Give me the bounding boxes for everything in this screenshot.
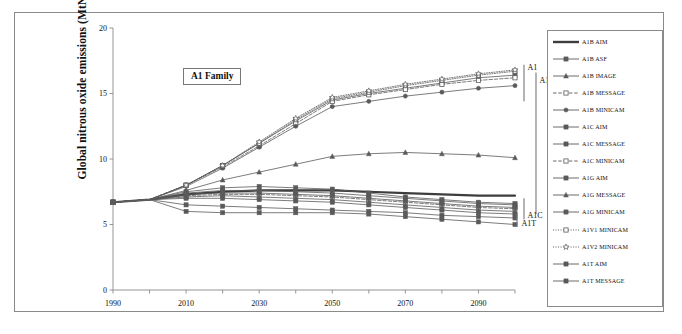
bracket-label-a1: A1 bbox=[528, 63, 538, 72]
legend-item-label: A1V1 MINICAM bbox=[581, 227, 628, 233]
legend-item[interactable]: A1V2 MINICAM bbox=[548, 238, 662, 255]
legend-item-label: A1C MINICAM bbox=[581, 158, 624, 164]
legend-item[interactable]: A1B ASF bbox=[548, 50, 662, 67]
legend-item[interactable]: A1G MINICAM bbox=[548, 204, 662, 221]
legend-item-label: A1G MINICAM bbox=[581, 209, 625, 215]
legend-item[interactable]: A1T AIM bbox=[548, 255, 662, 272]
legend-marker-icon bbox=[551, 206, 581, 218]
legend-item-label: A1B AIM bbox=[581, 39, 608, 45]
x-tick-label: 2050 bbox=[324, 299, 340, 308]
x-tick-label: 2070 bbox=[397, 299, 413, 308]
x-tick-label: 2030 bbox=[251, 299, 267, 308]
legend-item[interactable]: A1G MESSAGE bbox=[548, 187, 662, 204]
legend-marker-icon bbox=[551, 53, 581, 65]
y-tick-label: 15 bbox=[99, 89, 107, 98]
series-a1t-aim bbox=[111, 200, 517, 220]
bracket-label-a1t: A1T bbox=[522, 219, 537, 228]
legend-item-label: A1V2 MINICAM bbox=[581, 244, 628, 250]
legend-item[interactable]: A1B IMAGE bbox=[548, 67, 662, 84]
figure-page: 05101520199020102030205020702090A1A1GA1C… bbox=[0, 0, 682, 334]
legend-item[interactable]: A1V1 MINICAM bbox=[548, 221, 662, 238]
legend-item-label: A1B IMAGE bbox=[581, 73, 616, 79]
legend-marker-icon bbox=[551, 224, 581, 236]
legend-item[interactable]: A1B AIM bbox=[548, 33, 662, 50]
y-axis-title: Global nitrous oxide emissions (MtN/yr) bbox=[76, 0, 88, 194]
legend-marker-icon bbox=[551, 87, 581, 99]
legend-marker-icon bbox=[551, 172, 581, 184]
legend: A1B AIMA1B ASFA1B IMAGEA1B MESSAGEA1B MI… bbox=[547, 30, 663, 307]
legend-item-label: A1T MESSAGE bbox=[581, 278, 625, 284]
figure-frame: 05101520199020102030205020702090A1A1GA1C… bbox=[14, 12, 664, 312]
y-tick-label: 0 bbox=[103, 286, 107, 295]
legend-item-label: A1C MESSAGE bbox=[581, 141, 625, 147]
legend-item-label: A1B MINICAM bbox=[581, 107, 624, 113]
legend-item[interactable]: A1G AIM bbox=[548, 170, 662, 187]
legend-item[interactable]: A1C MESSAGE bbox=[548, 136, 662, 153]
y-tick-label: 5 bbox=[103, 220, 107, 229]
legend-marker-icon bbox=[551, 70, 581, 82]
y-tick-label: 20 bbox=[99, 24, 107, 33]
legend-item-label: A1B MESSAGE bbox=[581, 90, 625, 96]
legend-item-label: A1T AIM bbox=[581, 261, 607, 267]
legend-item[interactable]: A1C AIM bbox=[548, 118, 662, 135]
y-tick-label: 10 bbox=[99, 155, 107, 164]
legend-marker-icon bbox=[551, 155, 581, 167]
legend-item[interactable]: A1T MESSAGE bbox=[548, 272, 662, 289]
legend-marker-icon bbox=[551, 104, 581, 116]
legend-marker-icon bbox=[551, 138, 581, 150]
series-a1t-message bbox=[111, 200, 517, 227]
x-tick-label: 2090 bbox=[470, 299, 486, 308]
series-a1v1-minicam bbox=[111, 69, 517, 204]
series-a1b-minicam bbox=[111, 84, 517, 205]
chart-title-badge: A1 Family bbox=[183, 68, 241, 85]
legend-item-label: A1C AIM bbox=[581, 124, 608, 130]
legend-item-label: A1B ASF bbox=[581, 56, 607, 62]
legend-item-label: A1G AIM bbox=[581, 175, 608, 181]
series-a1v2-minicam bbox=[110, 67, 518, 205]
legend-marker-icon bbox=[551, 121, 581, 133]
x-tick-label: 2010 bbox=[178, 299, 194, 308]
legend-item[interactable]: A1B MINICAM bbox=[548, 101, 662, 118]
legend-marker-icon bbox=[551, 36, 581, 48]
legend-item[interactable]: A1C MINICAM bbox=[548, 153, 662, 170]
x-tick-label: 1990 bbox=[105, 299, 121, 308]
legend-marker-icon bbox=[551, 241, 581, 253]
legend-marker-icon bbox=[551, 275, 581, 287]
legend-item[interactable]: A1B MESSAGE bbox=[548, 84, 662, 101]
legend-marker-icon bbox=[551, 258, 581, 270]
legend-item-label: A1G MESSAGE bbox=[581, 192, 625, 198]
legend-marker-icon bbox=[551, 189, 581, 201]
series-a1b-asf bbox=[111, 73, 517, 204]
series-a1b-message bbox=[111, 76, 517, 205]
